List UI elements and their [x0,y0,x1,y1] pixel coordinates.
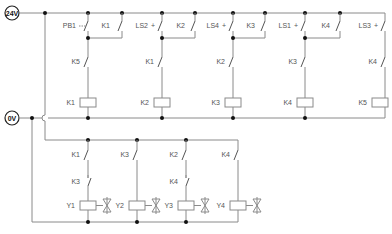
holding-label: K4 [321,22,330,29]
junction-node [231,116,235,120]
limit-switch-contact [229,21,233,31]
limit-switch-contact [301,21,305,31]
holding-label: K3 [246,22,255,29]
junction-node [184,220,188,224]
junction-node [30,116,34,120]
solenoid-label: Y3 [164,202,173,209]
junction-node [86,220,90,224]
relay-coil [154,98,170,107]
limit-switch-arrow-icon: + [294,22,298,29]
junction-node [231,36,235,40]
interlock-label: K1 [145,58,154,65]
interlock-contact [84,57,88,67]
limit-switch-arrow-icon: + [374,22,378,29]
holding-label: K2 [176,22,185,29]
output-contact-no [182,150,186,160]
output-contact-no [234,150,238,160]
limit-switch-arrow-icon: + [151,22,155,29]
control-rung-2: + LS2 K2 K1 K2 [136,11,197,120]
valve-icon [246,197,261,214]
interlock-contact [158,57,162,67]
output-contact1-label: K4 [221,151,230,158]
junction-node [86,116,90,120]
interlock-label: K3 [288,58,297,65]
junction-node [135,220,139,224]
solenoid-coil [129,201,145,210]
coil-label: K1 [66,99,75,106]
input-label: LS3 [359,22,372,29]
relay-coil [297,98,313,107]
terminal-0v-label: 0V [8,115,17,122]
holding-contact [336,21,340,31]
input-label: PB1 [63,22,76,29]
solenoid-coil [230,201,246,210]
relay-coil [372,98,388,107]
output-contact2-label: K3 [71,178,80,185]
coil-label: K5 [358,99,367,106]
junction-node [160,36,164,40]
coil-label: K3 [211,99,220,106]
output-rung-3: K2 K4 Y3 [164,138,209,224]
control-rung-3: + LS4 K3 K2 K3 [207,11,267,120]
output-contact1-label: K1 [71,151,80,158]
holding-contact [191,21,195,31]
junction-node [43,11,47,15]
interlock-contact [381,57,385,67]
solenoid-label: Y4 [216,202,225,209]
interlock-label: K2 [216,58,225,65]
terminal-24v-label: 24V [6,10,19,17]
relay-coil [80,98,96,107]
solenoid-label: Y2 [115,202,124,209]
input-label: LS2 [136,22,149,29]
interlock-contact [229,57,233,67]
input-label: LS1 [279,22,292,29]
limit-switch-arrow-icon: + [222,22,226,29]
terminal-24v: 24V [5,6,19,20]
junction-node [303,36,307,40]
terminal-0v: 0V [5,111,19,125]
input-label: LS4 [207,22,220,29]
solenoid-coil [80,201,96,210]
ladder-diagram: 24V 0V PB1 K1 K5 K1 [0,0,392,234]
control-rung-4: + LS1 K4 K3 K4 [279,11,342,120]
limit-switch-contact [381,21,385,31]
supply-feed-wire [42,13,238,140]
interlock-contact [301,57,305,67]
coil-label: K4 [283,99,292,106]
output-contact-no [84,150,88,160]
output-contact-nc [186,175,189,186]
output-contact2-label: K4 [169,178,178,185]
output-contact1-label: K3 [120,151,129,158]
output-rung-1: K1 K3 Y1 [66,138,111,224]
output-rung-2: K3 Y2 [115,138,160,224]
holding-contact [118,21,122,31]
valve-icon [96,197,111,214]
relay-coil [225,98,241,107]
limit-switch-contact [158,21,162,31]
valve-icon [194,197,209,214]
interlock-label: K4 [368,58,377,65]
solenoid-label: Y1 [66,202,75,209]
junction-node [160,116,164,120]
coil-label: K2 [140,99,149,106]
valve-icon [145,197,160,214]
control-rung-5: + LS3 K4 K5 [358,13,388,118]
junction-node [86,36,90,40]
control-rung-1: PB1 K1 K5 K1 [63,11,124,120]
holding-label: K1 [101,22,110,29]
output-contact-no [133,150,137,160]
output-rung-4: K4 Y4 [216,140,261,222]
output-contact-nc [88,175,91,186]
interlock-label: K5 [71,58,80,65]
holding-contact [261,21,265,31]
junction-node [303,116,307,120]
solenoid-coil [178,201,194,210]
output-contact1-label: K2 [169,151,178,158]
